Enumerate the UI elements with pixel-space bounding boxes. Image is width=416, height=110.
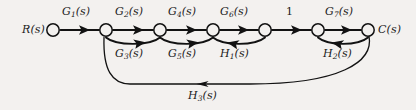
edge-G4: [167, 25, 206, 35]
branch-G1-arg: (s): [76, 5, 91, 18]
branch-G4-base: G: [168, 5, 177, 18]
output-node-label: C(s): [378, 24, 401, 35]
node-C[interactable]: [362, 24, 374, 36]
branch-H3-arg: (s): [202, 89, 217, 102]
branch-H3-base: H: [188, 89, 198, 102]
branch-G5-base: G: [168, 47, 177, 60]
branch-G3-arg: (s): [129, 47, 144, 60]
branch-H1-arg: (s): [234, 47, 249, 60]
node-6[interactable]: [312, 24, 324, 36]
output-label-text: C(s): [378, 23, 401, 36]
edge-G2: [113, 25, 153, 35]
edge-unity: [272, 25, 311, 35]
branch-label-G7: G7(s): [325, 6, 353, 19]
node-3[interactable]: [154, 24, 166, 36]
branch-G3-base: G: [115, 47, 124, 60]
branch-H2-arg: (s): [337, 47, 352, 60]
branch-G5-arg: (s): [182, 47, 197, 60]
branch-G6-base: G: [220, 5, 229, 18]
branch-label-G4: G4(s): [168, 6, 196, 19]
node-4[interactable]: [207, 24, 219, 36]
branch-unity-base: 1: [286, 5, 293, 18]
signal-flow-graph: R(s) C(s) G1(s) G2(s) G4(s) G6(s) 1 G7(s…: [0, 0, 416, 110]
branch-label-G1: G1(s): [62, 6, 90, 19]
node-R[interactable]: [47, 24, 59, 36]
branch-label-H1: H1(s): [220, 48, 249, 61]
branch-G2-arg: (s): [129, 5, 144, 18]
node-2[interactable]: [100, 24, 112, 36]
edge-G7: [325, 25, 361, 35]
branch-G6-arg: (s): [234, 5, 249, 18]
branch-G7-arg: (s): [339, 5, 354, 18]
node-5[interactable]: [259, 24, 271, 36]
edge-G1: [61, 25, 100, 35]
input-label-text: R(s): [22, 23, 45, 36]
branch-label-G3: G3(s): [115, 48, 143, 61]
branch-H2-base: H: [323, 47, 333, 60]
branch-label-unity: 1: [286, 6, 293, 17]
branch-label-G2: G2(s): [115, 6, 143, 19]
branch-G4-arg: (s): [182, 5, 197, 18]
branch-label-G6: G6(s): [220, 6, 248, 19]
branch-H1-base: H: [220, 47, 230, 60]
edge-G6: [220, 25, 258, 35]
branch-G7-base: G: [325, 5, 334, 18]
input-node-label: R(s): [22, 24, 45, 35]
branch-label-H2: H2(s): [323, 48, 352, 61]
branch-label-H3: H3(s): [188, 90, 217, 103]
branch-G2-base: G: [115, 5, 124, 18]
branch-label-G5: G5(s): [168, 48, 196, 61]
branch-G1-base: G: [62, 5, 71, 18]
